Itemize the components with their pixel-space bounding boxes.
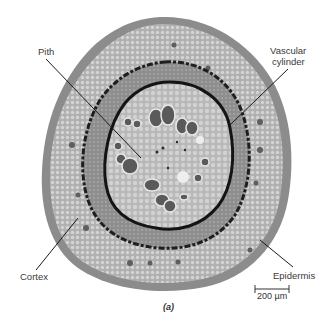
epidermis-leader-line: [260, 240, 293, 267]
label-vascular-line2: cylinder: [272, 56, 305, 67]
stem-cross-section-figure: Pith Vascular cylinder Cortex Epidermis …: [0, 0, 329, 328]
label-vascular-line1: Vascular: [270, 45, 306, 56]
scale-bar-label: 200 µm: [257, 291, 287, 301]
label-pith: Pith: [38, 46, 54, 57]
figure-caption: (a): [163, 302, 174, 312]
label-epidermis: Epidermis: [273, 270, 315, 281]
label-cortex: Cortex: [20, 271, 48, 282]
